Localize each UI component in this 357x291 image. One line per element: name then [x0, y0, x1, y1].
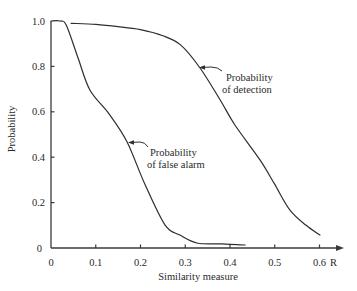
y-tick-label: 0.6: [32, 106, 45, 117]
chart-figure: 00.10.20.30.40.50.6 00.20.40.60.81.0 R S…: [0, 0, 357, 291]
axes: [51, 21, 344, 251]
annotation-detection: Probability of detection: [199, 65, 273, 95]
detection-label-line1: Probability: [226, 72, 273, 83]
y-tick-label: 0: [37, 243, 42, 254]
y-axis-title: Probability: [6, 105, 17, 152]
x-tick-label: 0.6: [313, 257, 326, 268]
false-alarm-curve: [51, 21, 245, 245]
false-alarm-label-line1: Probability: [150, 147, 197, 158]
false-alarm-label-line2: of false alarm: [147, 159, 205, 170]
x-axis-arrow-icon: [336, 245, 344, 251]
x-tick-label: 0: [48, 257, 53, 268]
y-tick-label: 1.0: [32, 16, 45, 27]
false-alarm-arrowhead-icon: [128, 140, 134, 144]
y-tick-label: 0.8: [32, 61, 45, 72]
x-axis-end-label: R: [330, 257, 337, 268]
x-tick-label: 0.1: [89, 257, 102, 268]
detection-label-line2: of detection: [222, 84, 273, 95]
x-tick-label: 0.5: [268, 257, 281, 268]
x-axis-title: Similarity measure: [158, 271, 238, 282]
x-tick-label: 0.4: [223, 257, 237, 268]
detection-curve: [71, 23, 320, 235]
detection-arrowhead-icon: [199, 65, 205, 69]
y-tick-label: 0.4: [32, 152, 46, 163]
annotation-false-alarm: Probability of false alarm: [128, 140, 205, 170]
x-tick-label: 0.3: [179, 257, 192, 268]
x-tick-label: 0.2: [134, 257, 147, 268]
y-tick-label: 0.2: [32, 197, 45, 208]
